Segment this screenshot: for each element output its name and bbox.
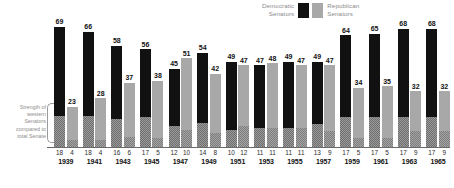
bar-value-label: 47: [256, 57, 264, 64]
axis-year-label: 1955: [283, 158, 307, 165]
bar-rect: [398, 29, 409, 148]
western-count-value: 10: [226, 149, 237, 156]
bar-dem-1947: 45: [169, 14, 180, 147]
bar-dem-1945: 56: [140, 14, 151, 147]
axis-year-label: 1963: [398, 158, 422, 165]
bar-rect: [181, 58, 192, 147]
bar-group: 4947: [226, 14, 250, 147]
axis-group-1955: 11111955: [283, 149, 307, 165]
axis-group-1949: 1481949: [197, 149, 221, 165]
bar-rect: [426, 29, 437, 148]
bar-rect: [267, 63, 278, 147]
axis-group-1963: 1791963: [398, 149, 422, 165]
bar-rep-1947: 51: [181, 14, 192, 147]
western-count-value: 6: [124, 149, 135, 156]
bar-rect: [382, 86, 393, 147]
bar-group: 5638: [140, 14, 164, 147]
bar-value-label: 66: [84, 23, 92, 30]
western-count-value: 17: [140, 149, 151, 156]
bar-value-label: 35: [383, 78, 391, 85]
western-counts: 184: [83, 149, 107, 156]
western-count-value: 8: [210, 149, 221, 156]
bar-group: 4947: [283, 14, 307, 147]
axis-year-label: 1951: [226, 158, 250, 165]
western-counts: 1012: [226, 149, 250, 156]
bar-dem-1955: 49: [283, 14, 294, 147]
western-count-value: 11: [254, 149, 265, 156]
bar-rep-1953: 48: [267, 14, 278, 147]
bar-rep-1951: 47: [238, 14, 249, 147]
western-counts: 1111: [254, 149, 278, 156]
western-counts: 175: [369, 149, 393, 156]
bar-rect: [54, 27, 65, 147]
western-count-value: 18: [83, 149, 94, 156]
western-counts: 139: [312, 149, 336, 156]
western-segment: [210, 133, 221, 147]
bar-rep-1959: 34: [353, 14, 364, 147]
western-count-value: 9: [439, 149, 450, 156]
bar-dem-1941: 66: [83, 14, 94, 147]
bar-dem-1965: 68: [426, 14, 437, 147]
bar-rect: [410, 91, 421, 147]
bar-rect: [210, 74, 221, 147]
bar-value-label: 54: [199, 44, 207, 51]
western-segment: [95, 140, 106, 147]
western-segment: [197, 123, 208, 147]
bar-rect: [369, 34, 380, 147]
bar-value-label: 68: [399, 20, 407, 27]
bar-group: 5837: [111, 14, 135, 147]
curly-brace-icon: [47, 103, 54, 143]
western-counts: 175: [140, 149, 164, 156]
bar-rect: [67, 107, 78, 147]
western-segment: [439, 131, 450, 147]
bar-value-label: 32: [440, 83, 448, 90]
bar-rep-1945: 38: [152, 14, 163, 147]
bar-rep-1943: 37: [124, 14, 135, 147]
bar-value-label: 51: [183, 50, 191, 57]
western-segment: [83, 116, 94, 147]
bar-value-label: 38: [154, 72, 162, 79]
bar-rect: [111, 46, 122, 147]
bar-value-label: 56: [142, 41, 150, 48]
western-segment: [124, 137, 135, 147]
bar-value-label: 65: [371, 25, 379, 32]
bar-rect: [124, 83, 135, 147]
axis-year-label: 1949: [197, 158, 221, 165]
western-segment: [238, 126, 249, 147]
bar-value-label: 68: [428, 20, 436, 27]
axis-group-1945: 1751945: [140, 149, 164, 165]
x-axis-line: [47, 147, 450, 148]
western-segment: [369, 117, 380, 147]
axis-group-1951: 10121951: [226, 149, 250, 165]
bar-rect: [353, 88, 364, 147]
axis-year-label: 1961: [369, 158, 393, 165]
bar-group: 5442: [197, 14, 221, 147]
bar-rect: [324, 65, 335, 147]
bar-dem-1953: 47: [254, 14, 265, 147]
axis-year-label: 1947: [169, 158, 193, 165]
axis-year-label: 1943: [111, 158, 135, 165]
western-segment: [382, 138, 393, 147]
western-segment: [283, 128, 294, 147]
western-count-value: 18: [54, 149, 65, 156]
bar-group: 4947: [312, 14, 336, 147]
bar-value-label: 64: [342, 27, 350, 34]
axis-group-1961: 1751961: [369, 149, 393, 165]
western-segment: [254, 128, 265, 147]
bar-rect: [152, 81, 163, 147]
western-segment: [267, 128, 278, 147]
western-segment: [296, 128, 307, 147]
bar-rep-1963: 32: [410, 14, 421, 147]
western-segment: [152, 138, 163, 147]
western-count-value: 11: [283, 149, 294, 156]
western-counts: 184: [54, 149, 78, 156]
western-counts: 148: [197, 149, 221, 156]
axis-year-label: 1941: [83, 158, 107, 165]
western-count-value: 4: [67, 149, 78, 156]
western-count-value: 17: [398, 149, 409, 156]
western-count-value: 14: [197, 149, 208, 156]
bar-group: 6535: [369, 14, 393, 147]
bar-rect: [254, 65, 265, 147]
western-segment: [111, 119, 122, 147]
bar-rect: [140, 49, 151, 147]
